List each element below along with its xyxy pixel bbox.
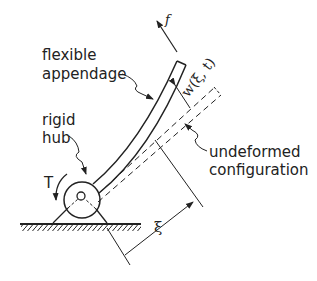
- flexible-appendage-diagram: f w(ξ, t) ξ T flexible appendage rigid h…: [0, 0, 317, 281]
- force-arrow: f: [157, 12, 177, 52]
- force-label: f: [164, 12, 172, 27]
- flexible-appendage-label-line1: flexible: [42, 46, 96, 64]
- rigid-hub: [64, 182, 100, 218]
- rigid-hub-callout: rigid hub: [42, 111, 86, 174]
- torque: T: [43, 174, 67, 200]
- deflection-label: w(ξ, t): [178, 54, 218, 99]
- ground: [20, 224, 141, 231]
- flexible-appendage-callout: flexible appendage: [42, 46, 153, 99]
- rigid-hub-label-line1: rigid: [42, 111, 76, 129]
- undeformed-label-line2: configuration: [209, 161, 309, 179]
- position-dimension: ξ: [107, 140, 203, 265]
- undeformed-callout: undeformed configuration: [185, 124, 309, 179]
- extension-line-end: [155, 140, 203, 207]
- appendage-tip: [177, 61, 186, 65]
- support-triangle: [53, 199, 107, 223]
- position-label: ξ: [154, 218, 162, 236]
- flexible-appendage-label-line2: appendage: [42, 65, 126, 83]
- pivot-icon: [77, 192, 85, 200]
- undeformed-configuration: [98, 87, 221, 202]
- extension-line-start: [107, 228, 130, 265]
- ground-hatching: [21, 224, 141, 231]
- torque-label: T: [43, 174, 54, 192]
- torque-arrow-icon: [56, 174, 67, 200]
- undeformed-label-line1: undeformed: [209, 143, 301, 161]
- rigid-hub-label-line2: hub: [42, 129, 71, 147]
